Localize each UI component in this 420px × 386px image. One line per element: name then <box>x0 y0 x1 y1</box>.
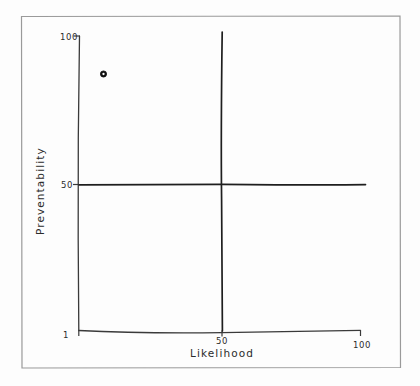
x-axis-tick-label-100: 100 <box>353 340 371 350</box>
y-axis-tick-label-1: 1 <box>63 330 69 340</box>
y-axis-line <box>78 36 79 331</box>
y-axis-title: Preventability <box>34 147 46 235</box>
x-axis-tick-label-50: 50 <box>216 336 228 346</box>
y-axis-tick-label-50: 50 <box>61 180 73 190</box>
data-point-marker[interactable] <box>100 71 106 77</box>
y-axis-tick-label-100: 100 <box>60 32 78 42</box>
quadrant-divider-horizontal <box>79 184 366 185</box>
chart-figure: 100 50 1 50 100 Likelihood Preventabilit… <box>0 0 420 386</box>
quadrant-divider-vertical <box>221 32 222 331</box>
x-axis-title: Likelihood <box>190 347 254 359</box>
chart-canvas: 100 50 1 50 100 Likelihood Preventabilit… <box>0 0 420 386</box>
x-axis-line <box>79 330 361 333</box>
